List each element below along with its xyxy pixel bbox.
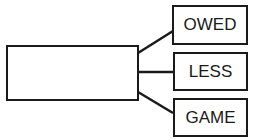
target-label-less: LESS bbox=[189, 62, 232, 82]
target-box-game: GAME bbox=[173, 98, 248, 137]
target-box-less: LESS bbox=[173, 52, 248, 91]
connector-game bbox=[138, 92, 173, 113]
target-box-owed: OWED bbox=[172, 5, 248, 45]
connector-owed bbox=[138, 31, 173, 53]
target-label-game: GAME bbox=[185, 108, 235, 128]
target-label-owed: OWED bbox=[184, 15, 237, 35]
source-answer-box[interactable] bbox=[6, 45, 139, 101]
